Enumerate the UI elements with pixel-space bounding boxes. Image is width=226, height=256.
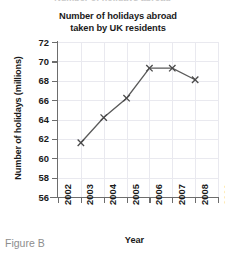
gridline-horizontal — [58, 178, 218, 179]
x-tick-mark — [195, 198, 196, 203]
gridline-horizontal — [58, 61, 218, 62]
y-tick-label: 72 — [26, 38, 49, 47]
x-axis-title: Year — [50, 235, 219, 245]
y-tick-label: 62 — [26, 134, 49, 143]
plot-area — [58, 42, 218, 197]
gridline-vertical — [149, 42, 150, 197]
x-tick-mark — [104, 198, 105, 203]
y-tick-mark — [52, 178, 57, 179]
x-tick-label: 2009 — [223, 184, 226, 205]
gridline-horizontal — [58, 100, 218, 101]
gridline-vertical — [172, 42, 173, 197]
y-tick-mark — [52, 61, 57, 62]
y-tick-label: 70 — [26, 57, 49, 66]
x-tick-label: 2002 — [63, 184, 72, 205]
y-tick-label: 68 — [26, 76, 49, 85]
chart-title-line-1: Number of holidays abroad — [59, 11, 177, 21]
y-tick-label: 60 — [26, 154, 49, 163]
gridline-horizontal — [58, 81, 218, 82]
x-tick-label: 2003 — [85, 184, 94, 205]
gridline-vertical — [104, 42, 105, 197]
y-tick-mark — [52, 42, 57, 43]
gridline-vertical — [127, 42, 128, 197]
chart-title-line-2: taken by UK residents — [70, 23, 166, 33]
y-tick-label: 58 — [26, 173, 49, 182]
y-tick-label: 64 — [26, 115, 49, 124]
y-tick-mark — [52, 81, 57, 82]
x-tick-label: 2005 — [131, 184, 140, 205]
y-tick-mark — [52, 197, 57, 198]
x-tick-mark — [218, 198, 219, 203]
x-tick-mark — [127, 198, 128, 203]
gridline-vertical — [218, 42, 219, 197]
y-tick-mark — [52, 100, 57, 101]
x-tick-mark — [81, 198, 82, 203]
y-tick-mark — [52, 120, 57, 121]
figure-caption: Figure B — [5, 237, 45, 249]
gridline-horizontal — [58, 158, 218, 159]
y-axis-spine — [57, 41, 58, 198]
clipped-heading-text: Number of holidays abroad — [0, 0, 225, 1]
y-tick-mark — [52, 158, 57, 159]
gridline-horizontal — [58, 42, 218, 43]
x-tick-label: 2007 — [177, 184, 186, 205]
chart-title: Number of holidays abroad taken by UK re… — [18, 11, 218, 34]
x-tick-label: 2006 — [154, 184, 163, 205]
gridline-horizontal — [58, 120, 218, 121]
x-tick-label: 2008 — [200, 184, 209, 205]
y-tick-label: 56 — [26, 193, 49, 202]
gridline-vertical — [81, 42, 82, 197]
gridline-horizontal — [58, 139, 218, 140]
x-tick-mark — [149, 198, 150, 203]
y-tick-label: 66 — [26, 96, 49, 105]
y-axis-title: Number of holidays (millions) — [13, 28, 23, 208]
x-tick-mark — [172, 198, 173, 203]
gridline-vertical — [195, 42, 196, 197]
x-tick-mark — [58, 198, 59, 203]
y-tick-mark — [52, 139, 57, 140]
x-tick-label: 2004 — [108, 184, 117, 205]
